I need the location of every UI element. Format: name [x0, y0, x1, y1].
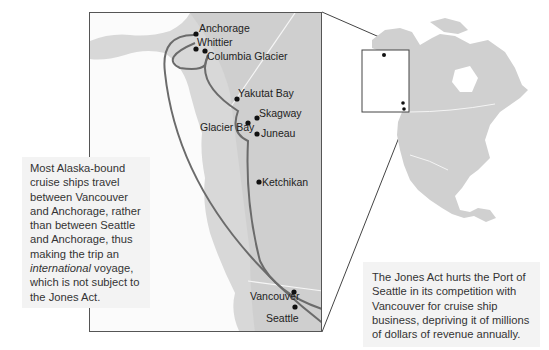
callout-jones-act-impact: The Jones Act hurts the Port of Seattle … — [363, 262, 540, 347]
dot-juneau — [254, 131, 259, 136]
label-whittier: Whittier — [197, 37, 233, 48]
label-ketchikan: Ketchikan — [262, 177, 308, 188]
callout-right-text: The Jones Act hurts the Port of Seattle … — [372, 271, 529, 340]
north-america-landmass — [372, 18, 528, 222]
label-columbia-glacier: Columbia Glacier — [207, 51, 288, 62]
callout-vancouver-route: Most Alaska-bound cruise ships travel be… — [22, 157, 150, 308]
label-glacier-bay: Glacier Bay — [200, 122, 254, 133]
label-yakutat-bay: Yakutat Bay — [238, 88, 294, 99]
label-anchorage: Anchorage — [199, 23, 250, 34]
callout-left-text-before: Most Alaska-bound cruise ships travel be… — [30, 162, 141, 260]
inset-dot-vancouver — [401, 101, 405, 105]
dot-seattle — [292, 304, 297, 309]
arctic-islands — [430, 18, 468, 34]
label-vancouver: Vancouver — [250, 291, 299, 302]
inset-dot-seattle — [402, 107, 406, 111]
label-juneau: Juneau — [261, 128, 295, 139]
label-skagway: Skagway — [259, 108, 302, 119]
inset-dot-anchorage — [382, 53, 386, 57]
label-seattle: Seattle — [266, 313, 299, 324]
dot-ketchikan — [256, 179, 261, 184]
callout-left-emphasis: international — [30, 262, 91, 274]
